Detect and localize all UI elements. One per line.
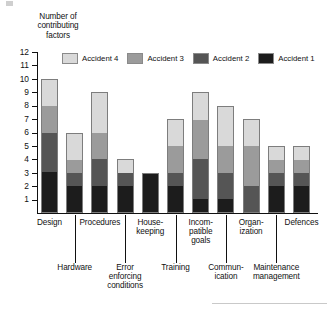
bar-segment xyxy=(92,159,107,185)
x-axis-label-line: Maintenance xyxy=(236,263,316,272)
y-tick-mark xyxy=(32,159,37,160)
bar-segment xyxy=(294,160,309,173)
y-tick-label: 8 xyxy=(9,101,29,109)
y-axis-title-line-1: Number of xyxy=(22,12,94,21)
bar-organization[interactable] xyxy=(243,119,260,213)
y-tick-label: 2 xyxy=(9,182,29,190)
y-tick-label: 6 xyxy=(9,128,29,136)
y-tick-label: 7 xyxy=(9,115,29,123)
bar-segment xyxy=(193,120,208,160)
x-axis-label: Defences xyxy=(262,218,327,227)
x-axis-label-line: conditions xyxy=(85,281,165,290)
y-tick-mark xyxy=(32,106,37,107)
bar-segment xyxy=(294,173,309,186)
y-tick-label: 12 xyxy=(9,48,29,56)
y-tick-label: 10 xyxy=(9,75,29,83)
bar-segment xyxy=(193,93,208,119)
footer-rule xyxy=(212,303,327,304)
bar-segment xyxy=(67,173,82,186)
bar-segment xyxy=(42,80,57,106)
y-tick-label: 1 xyxy=(9,195,29,203)
x-axis-label: Maintenancemanagement xyxy=(236,263,316,281)
bar-segment xyxy=(92,186,107,212)
y-tick-mark xyxy=(32,200,37,201)
bar-segment xyxy=(118,173,133,186)
bar-design[interactable] xyxy=(41,79,58,213)
bar-segment xyxy=(218,107,233,147)
bar-series-area xyxy=(38,52,318,213)
bar-defences[interactable] xyxy=(293,146,310,213)
bar-segment xyxy=(218,173,233,199)
bar-segment xyxy=(294,186,309,212)
bar-segment xyxy=(67,186,82,212)
bar-segment xyxy=(218,199,233,212)
bar-segment xyxy=(143,174,158,212)
x-axis-label-line: Defences xyxy=(262,218,327,227)
x-axis-label-line: ization xyxy=(211,227,291,236)
y-tick-label: 11 xyxy=(9,61,29,69)
bar-segment xyxy=(244,146,259,185)
y-axis-title-line-3: factors xyxy=(22,31,94,40)
bar-segment xyxy=(218,146,233,172)
y-tick-label: 5 xyxy=(9,142,29,150)
y-tick-mark xyxy=(32,133,37,134)
y-tick-mark xyxy=(32,52,37,53)
bar-training[interactable] xyxy=(167,119,184,213)
y-tick-mark xyxy=(32,65,37,66)
bar-segment xyxy=(244,120,259,146)
y-tick-mark xyxy=(32,92,37,93)
bar-segment xyxy=(168,186,183,212)
y-axis-title-line-2: contributing xyxy=(22,21,94,30)
x-axis-label-line: management xyxy=(236,272,316,281)
bar-hardware[interactable] xyxy=(66,133,83,214)
bar-segment xyxy=(193,159,208,199)
bar-segment xyxy=(269,186,284,212)
bar-segment xyxy=(269,173,284,186)
bar-segment xyxy=(92,133,107,159)
bar-segment xyxy=(42,133,57,173)
y-tick-label: 3 xyxy=(9,169,29,177)
bar-segment xyxy=(118,186,133,212)
stacked-bar-chart: Number of contributing factors 121110987… xyxy=(0,0,327,311)
bar-segment xyxy=(168,173,183,186)
y-axis-title: Number of contributing factors xyxy=(22,12,94,40)
x-axis-labels: DesignHardwareProceduresErrorenforcingco… xyxy=(0,213,327,311)
y-tick-mark xyxy=(32,173,37,174)
bar-segment xyxy=(168,146,183,172)
bar-segment xyxy=(67,160,82,173)
bar-segment xyxy=(42,106,57,132)
bar-segment xyxy=(294,147,309,160)
bar-segment xyxy=(168,120,183,146)
bar-segment xyxy=(269,160,284,173)
bar-segment xyxy=(269,147,284,160)
bar-segment xyxy=(42,172,57,212)
y-tick-mark xyxy=(32,119,37,120)
bar-segment xyxy=(244,186,259,212)
bar-incompatible-goals[interactable] xyxy=(192,92,209,213)
x-axis-label-line: goals xyxy=(161,236,241,245)
bar-segment xyxy=(92,93,107,133)
y-tick-mark xyxy=(32,186,37,187)
bar-procedures[interactable] xyxy=(91,92,108,213)
x-axis-label-line: enforcing xyxy=(85,272,165,281)
bar-segment xyxy=(118,160,133,173)
y-tick-mark xyxy=(32,146,37,147)
bar-segment xyxy=(67,134,82,160)
y-tick-label: 9 xyxy=(9,88,29,96)
bar-error-enforcing-conditions[interactable] xyxy=(117,159,134,213)
bar-house-keeping[interactable] xyxy=(142,173,159,213)
y-tick-mark xyxy=(32,79,37,80)
bar-segment xyxy=(193,199,208,212)
bar-communication[interactable] xyxy=(217,106,234,213)
bar-maintenance-management[interactable] xyxy=(268,146,285,213)
y-tick-label: 4 xyxy=(9,155,29,163)
page-corner-mark xyxy=(6,1,13,6)
